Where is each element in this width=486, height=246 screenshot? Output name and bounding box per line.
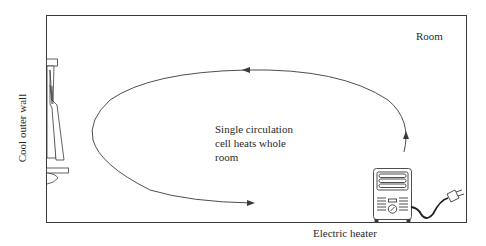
window-curtain-icon [47, 59, 69, 184]
cool-outer-wall-label: Cool outer wall [15, 94, 29, 162]
power-cord-icon [411, 198, 448, 218]
room-label: Room [416, 29, 443, 43]
electric-heater-icon [374, 169, 412, 223]
plug-icon [447, 190, 464, 202]
circulation-cell-label: Single circulation cell heats whole room [215, 122, 305, 164]
electric-heater-label: Electric heater [313, 226, 377, 240]
